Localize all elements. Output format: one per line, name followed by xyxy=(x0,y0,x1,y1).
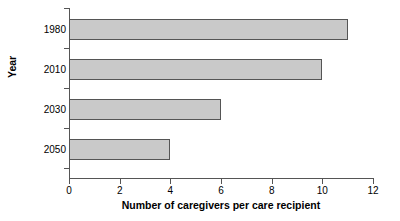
y-tick-label-2030: 2030 xyxy=(44,105,66,115)
x-tick-label-8: 8 xyxy=(260,186,284,196)
x-tick-label-12: 12 xyxy=(361,186,385,196)
x-axis-tick xyxy=(170,179,171,184)
y-axis-tick xyxy=(64,8,69,9)
x-axis-tick xyxy=(272,179,273,184)
bar-chart: 1980 2010 2030 2050 0 2 4 6 8 10 12 Numb… xyxy=(0,0,400,221)
y-tick-label-2050: 2050 xyxy=(44,145,66,155)
x-tick-label-2: 2 xyxy=(108,186,132,196)
y-tick-label-1980: 1980 xyxy=(44,25,66,35)
x-axis-tick xyxy=(69,179,70,184)
x-axis-tick xyxy=(322,179,323,184)
y-axis-tick xyxy=(64,128,69,129)
x-tick-label-10: 10 xyxy=(310,186,334,196)
bar-2010 xyxy=(69,59,322,80)
x-axis-tick xyxy=(221,179,222,184)
x-tick-label-6: 6 xyxy=(209,186,233,196)
x-tick-label-0: 0 xyxy=(57,186,81,196)
y-tick-label-2010: 2010 xyxy=(44,65,66,75)
bar-1980 xyxy=(69,19,348,40)
bar-2050 xyxy=(69,139,170,160)
x-tick-label-4: 4 xyxy=(158,186,182,196)
y-axis-tick xyxy=(64,88,69,89)
x-axis-tick xyxy=(120,179,121,184)
y-axis-tick xyxy=(64,48,69,49)
x-axis-tick xyxy=(373,179,374,184)
y-axis-title: Year xyxy=(6,56,18,78)
y-axis-tick xyxy=(64,168,69,169)
x-axis-title: Number of caregivers per care recipient xyxy=(69,199,373,211)
bar-2030 xyxy=(69,99,221,120)
